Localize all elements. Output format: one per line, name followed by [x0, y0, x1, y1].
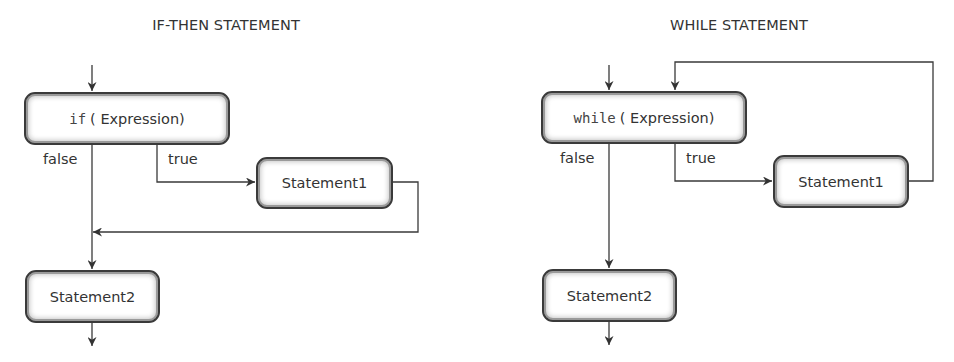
false-label: false — [560, 150, 595, 166]
statement1-box: Statement1 — [773, 155, 909, 208]
keyword-while: while — [574, 110, 616, 126]
true-label: true — [686, 150, 716, 166]
if-condition-box: if ( Expression) — [24, 92, 230, 145]
diagram-title: IF-THEN STATEMENT — [152, 17, 300, 33]
false-label: false — [43, 151, 78, 167]
statement1-label: Statement1 — [282, 175, 368, 191]
statement2-box: Statement2 — [542, 269, 677, 322]
statement2-label: Statement2 — [50, 289, 136, 305]
while-condition-box: while ( Expression) — [541, 91, 747, 144]
diagram-title: WHILE STATEMENT — [670, 17, 808, 33]
condition-expression: ( Expression) — [90, 111, 185, 127]
statement2-box: Statement2 — [25, 270, 160, 323]
statement2-label: Statement2 — [567, 288, 653, 304]
statement1-label: Statement1 — [798, 174, 884, 190]
statement1-box: Statement1 — [256, 157, 393, 209]
keyword-if: if — [69, 111, 86, 127]
true-label: true — [168, 151, 198, 167]
condition-expression: ( Expression) — [620, 110, 715, 126]
